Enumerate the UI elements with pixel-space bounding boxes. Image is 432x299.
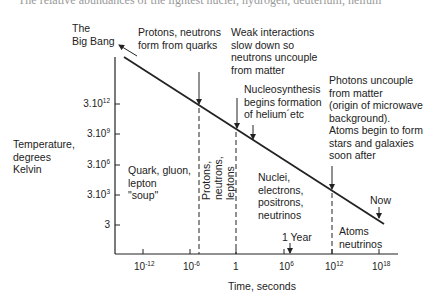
region-line: "soup" <box>128 189 191 202</box>
big-bang-line: Big Bang <box>72 35 115 48</box>
x-tick-exp: -6 <box>194 260 200 267</box>
annotation-line: Protons, neutrons <box>138 26 221 39</box>
region-protons-neutrons-leptons: Protons, neutrons, leptons <box>200 156 236 200</box>
big-bang-label: The Big Bang <box>72 22 115 47</box>
x-tick-label: 1018 <box>372 261 390 272</box>
now-label: Now <box>370 194 391 207</box>
x-tick-exp: 18 <box>383 260 390 267</box>
annotation-line: Nucleosynthesis <box>244 83 322 96</box>
annotation-line: background). <box>329 112 423 125</box>
annotation-line: of helium´etc <box>244 108 322 121</box>
y-tick-label: 3.106 <box>87 159 110 170</box>
annotation-line: neutrons uncouple <box>231 51 317 64</box>
annotation-line: Photons uncouple <box>329 74 423 87</box>
x-tick-label: 1 <box>233 261 239 272</box>
x-tick-base: 10 <box>325 261 336 272</box>
region-line: Atoms <box>339 225 382 238</box>
y-tick-exp: 9 <box>106 127 110 134</box>
x-tick-base: 10 <box>279 261 290 272</box>
region-line: Protons, <box>200 156 212 200</box>
x-tick-exp: -12 <box>145 260 154 267</box>
region-line: leptons <box>224 156 236 200</box>
y-tick-exp: 3 <box>106 188 110 195</box>
big-bang-arrow <box>119 45 137 56</box>
y-tick-base: 3.10 <box>83 98 102 109</box>
region-line: Quark, gluon, <box>128 164 191 177</box>
y-tick-exp: 12 <box>103 97 110 104</box>
annotation-line: from matter <box>329 87 423 100</box>
region-line: neutrinos <box>339 238 382 251</box>
y-tick-exp: 6 <box>106 158 110 165</box>
y-axis-label-line: degrees <box>13 151 75 164</box>
annotation-line: slow down so <box>231 39 317 52</box>
y-tick-base: 3.10 <box>87 189 106 200</box>
region-nuclei: Nuclei, electrons, positrons, neutrinos <box>258 171 304 221</box>
y-tick-base: 3 <box>104 219 110 230</box>
region-line: neutrinos <box>258 209 304 222</box>
protons-form-label: Protons, neutrons form from quarks <box>138 26 221 51</box>
x-tick-base: 10 <box>372 261 383 272</box>
y-tick-label: 3 <box>104 219 110 230</box>
x-tick-exp: 6 <box>290 260 294 267</box>
photons-uncouple-label: Photons uncouple from matter (origin of … <box>329 74 423 162</box>
region-atoms-neutrinos: Atoms neutrinos <box>339 225 382 250</box>
annotation-line: soon after <box>329 149 423 162</box>
y-tick-label: 3.109 <box>87 128 110 139</box>
annotation-line: Atoms begin to form <box>329 124 423 137</box>
one-year-label: 1 Year <box>282 231 312 244</box>
y-axis-label: Temperature, degrees Kelvin <box>13 138 75 176</box>
annotation-line: Weak interactions <box>231 26 317 39</box>
x-tick-exp: 12 <box>336 260 343 267</box>
annotation-line: from matter <box>231 64 317 77</box>
region-line: lepton <box>128 177 191 190</box>
x-axis-label: Time, seconds <box>228 280 296 293</box>
y-axis-ticks <box>115 104 120 225</box>
region-line: neutrons, <box>212 156 224 200</box>
x-tick-label: 1012 <box>325 261 343 272</box>
y-axis-label-line: Temperature, <box>13 138 75 151</box>
x-tick-base: 10 <box>134 261 145 272</box>
nucleosynthesis-label: Nucleosynthesis begins formation of heli… <box>244 83 322 121</box>
y-tick-base: 3.10 <box>87 128 106 139</box>
annotation-line: form from quarks <box>138 39 221 52</box>
region-line: electrons, <box>258 184 304 197</box>
y-tick-label: 3.1012 <box>83 98 110 109</box>
annotation-line: begins formation <box>244 96 322 109</box>
y-axis-label-line: Kelvin <box>13 163 75 176</box>
annotation-line: stars and galaxies <box>329 137 423 150</box>
weak-interactions-label: Weak interactions slow down so neutrons … <box>231 26 317 76</box>
annotation-line: (origin of microwave <box>329 99 423 112</box>
x-tick-base: 1 <box>233 261 239 272</box>
y-tick-base: 3.10 <box>87 159 106 170</box>
region-quark-soup: Quark, gluon, lepton "soup" <box>128 164 191 202</box>
x-tick-label: 10-12 <box>134 261 155 272</box>
region-line: positrons, <box>258 196 304 209</box>
x-tick-label: 10-6 <box>183 261 200 272</box>
region-line: Nuclei, <box>258 171 304 184</box>
big-bang-line: The <box>72 22 115 35</box>
x-tick-base: 10 <box>183 261 194 272</box>
x-tick-label: 106 <box>279 261 294 272</box>
y-tick-label: 3.103 <box>87 189 110 200</box>
